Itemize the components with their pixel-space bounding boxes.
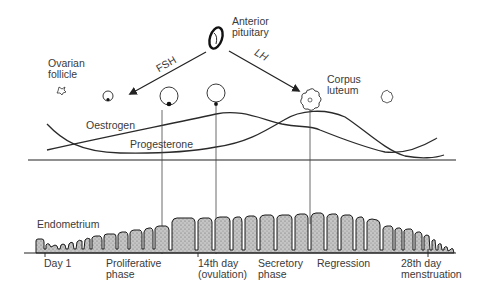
fsh-arrow: FSH [130, 52, 206, 94]
endometrium-label: Endometrium [37, 218, 100, 230]
hormone-curves: Oestrogen Progesterone [28, 111, 456, 160]
oestrogen-label: Oestrogen [86, 119, 135, 131]
lh-arrow: LH [229, 46, 299, 91]
growing-follicle-icon [160, 87, 178, 106]
pituitary-gland-icon [207, 26, 225, 51]
anterior-pituitary: Anterior pituitary [207, 15, 270, 50]
regressing-corpus-luteum-icon [381, 90, 393, 103]
timeline-label-regression: Regression [317, 257, 370, 269]
fsh-label: FSH [154, 53, 178, 74]
timeline-label-menstruation: menstruation [401, 268, 462, 280]
timeline-label-secretory-2: phase [258, 268, 287, 280]
lh-label: LH [253, 46, 271, 63]
timeline-labels: Day 1 Proliferative phase 14th day (ovul… [44, 257, 462, 280]
corpus-luteum-label-line2: luteum [327, 84, 359, 96]
timeline-label-ovulation-2: (ovulation) [198, 268, 247, 280]
corpus-luteum-icon [301, 89, 321, 111]
mature-follicle-icon [207, 84, 225, 106]
pituitary-label-line2: pituitary [232, 26, 270, 38]
menstrual-cycle-diagram: Anterior pituitary FSH LH Ovarian follic… [0, 0, 485, 298]
primordial-follicle-icon [57, 87, 66, 95]
small-follicle-icon [103, 91, 113, 101]
timeline-label-day1: Day 1 [44, 257, 72, 269]
timeline-label-proliferative-2: phase [106, 268, 135, 280]
ovarian-follicle-label-line2: follicle [48, 68, 77, 80]
